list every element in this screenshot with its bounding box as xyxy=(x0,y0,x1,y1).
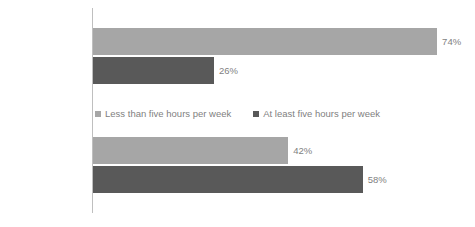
bar-value-label: 58% xyxy=(368,166,387,193)
bar-exploring-data-at-least-five-hours[interactable] xyxy=(93,166,363,193)
bar-presenting-analysis-at-least-five-hours[interactable] xyxy=(93,57,214,84)
legend-swatch-icon xyxy=(95,111,101,117)
bar-exploring-data-less-than-five-hours[interactable] xyxy=(93,137,288,164)
legend-entry-at-least-five-hours[interactable]: At least five hours per week xyxy=(253,108,380,119)
legend-label: At least five hours per week xyxy=(263,108,380,119)
bar-value-label: 42% xyxy=(293,137,312,164)
chart-legend: Less than five hours per week At least f… xyxy=(0,108,475,119)
bar-presenting-analysis-less-than-five-hours[interactable] xyxy=(93,28,437,55)
bar-chart: Presenting Analysis 74% 26% 42% 58% Expl… xyxy=(0,0,475,227)
bar-value-label: 26% xyxy=(219,57,238,84)
legend-entry-less-than-five-hours[interactable]: Less than five hours per week xyxy=(95,108,231,119)
legend-label: Less than five hours per week xyxy=(105,108,231,119)
legend-swatch-icon xyxy=(253,111,259,117)
bar-value-label: 74% xyxy=(442,28,461,55)
